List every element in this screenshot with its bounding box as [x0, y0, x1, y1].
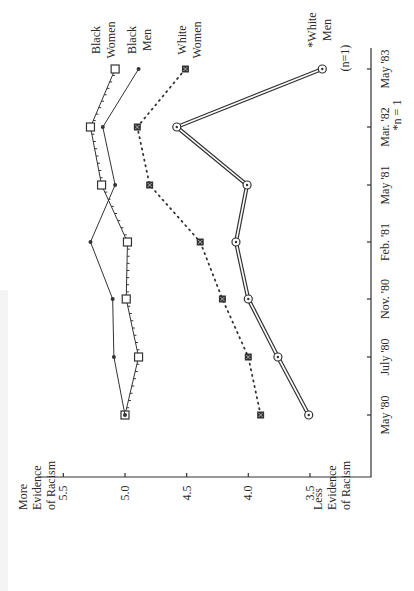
- series-label: Men: [140, 29, 154, 51]
- axis-lines: [38, 48, 371, 477]
- more-evidence-label: of Racism: [44, 460, 58, 510]
- time-tick-label: July '80: [378, 338, 392, 375]
- axes: 5.55.04.54.03.5May '80July '80Nov. '80Fe…: [38, 48, 392, 501]
- dot-marker: [88, 240, 92, 244]
- circle-marker-dot: [235, 241, 237, 243]
- circle-marker-dot: [321, 68, 323, 70]
- series-black-women: [86, 65, 142, 419]
- less-evidence-label: of Racism: [339, 460, 353, 510]
- dot-marker: [101, 125, 105, 129]
- series-label: Women: [104, 21, 118, 58]
- series-layer: [86, 65, 326, 419]
- series-label: *White: [305, 12, 319, 47]
- series-label: White: [175, 25, 189, 54]
- n-annotation: (n=1): [338, 45, 352, 72]
- circle-marker-dot: [277, 356, 279, 358]
- series-label: Black: [89, 26, 103, 54]
- dot-marker: [123, 413, 127, 417]
- open-square-marker: [135, 353, 143, 361]
- series-label: Men: [320, 19, 334, 41]
- less-evidence-label: Evidence: [325, 465, 339, 510]
- series-label: Black: [125, 26, 139, 54]
- value-tick-label: 5.0: [118, 486, 132, 501]
- series-black-men: [88, 67, 140, 417]
- time-tick-label: Feb. '81: [378, 223, 392, 261]
- racism-trend-chart: 5.55.04.54.03.5May '80July '80Nov. '80Fe…: [0, 0, 414, 591]
- open-square-marker: [111, 65, 119, 73]
- labels-layer: MoreEvidenceof RacismLessEvidenceof Raci…: [16, 12, 404, 510]
- dot-marker: [137, 67, 141, 71]
- open-square-marker: [122, 295, 130, 303]
- series-label: Women: [190, 21, 204, 58]
- circle-marker-dot: [246, 184, 248, 186]
- circle-marker-dot: [308, 414, 310, 416]
- value-tick-label: 4.5: [180, 486, 194, 501]
- dot-marker: [111, 297, 115, 301]
- time-tick-label: May '80: [378, 395, 392, 434]
- footnote-annotation: *n = 1: [390, 100, 404, 131]
- series-white-men: [173, 65, 326, 419]
- open-square-marker: [98, 181, 106, 189]
- dot-marker: [112, 355, 116, 359]
- circle-marker-dot: [176, 126, 178, 128]
- value-tick-label: 4.0: [241, 486, 255, 501]
- open-square-marker: [123, 238, 131, 246]
- dot-marker: [113, 183, 117, 187]
- circle-marker-dot: [247, 298, 249, 300]
- more-evidence-label: More: [16, 484, 30, 510]
- open-square-marker: [86, 123, 94, 131]
- less-evidence-label: Less: [311, 488, 325, 510]
- time-tick-label: May '83: [378, 49, 392, 88]
- time-tick-label: Nov. '80: [378, 279, 392, 319]
- more-evidence-label: Evidence: [30, 465, 44, 510]
- value-tick-label: 5.5: [56, 486, 70, 501]
- time-tick-label: May '81: [378, 165, 392, 204]
